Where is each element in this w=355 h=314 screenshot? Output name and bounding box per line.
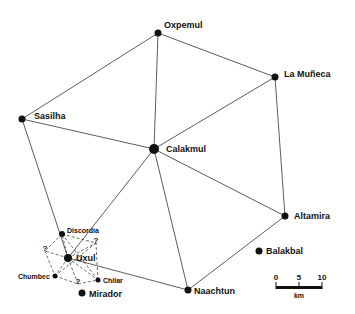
- link-line: [154, 149, 188, 290]
- dashed-link-line: [78, 280, 98, 284]
- site-chilar: Chilar: [96, 277, 124, 284]
- site-dot-icon: [53, 274, 58, 279]
- site-dot-icon: [282, 213, 289, 220]
- dashed-link-line: [96, 243, 98, 280]
- site-dot-icon: [19, 116, 26, 123]
- link-line: [154, 149, 285, 216]
- site-naachtun: Naachtun: [185, 286, 236, 296]
- scale-tick-0: 0: [274, 273, 279, 282]
- site-chumbec: Chumbec: [18, 273, 58, 280]
- site-uxul: Uxul: [64, 253, 96, 263]
- site-altamira: Altamira: [282, 211, 332, 221]
- link-line: [158, 33, 275, 77]
- unknown-site-label: ?: [43, 244, 48, 253]
- link-line: [68, 149, 154, 258]
- site-balakbal: Balakbal: [256, 246, 304, 256]
- site-label: Naachtun: [194, 286, 235, 296]
- dashed-link-line: [55, 276, 78, 284]
- unknown-site-label: ?: [94, 236, 99, 245]
- link-line: [275, 77, 285, 216]
- site-dot-icon: [79, 290, 86, 297]
- unknown-site-label: ?: [76, 277, 81, 286]
- site-label: Balakbal: [266, 246, 303, 256]
- solid-links: [22, 33, 285, 290]
- site-label: Uxul: [76, 253, 96, 263]
- site-mirador: Mirador: [79, 289, 123, 299]
- scale-tick-10: 10: [318, 273, 327, 282]
- site-la-mu-eca: La Muñeca: [272, 69, 332, 81]
- site-label: Discordia: [67, 227, 99, 234]
- site-dot-icon: [185, 287, 192, 294]
- site-label: Oxpemul: [164, 20, 203, 30]
- scale-unit: km: [294, 292, 304, 299]
- site-label: Sasilha: [34, 111, 67, 121]
- link-line: [22, 119, 68, 258]
- link-line: [22, 119, 154, 149]
- site-dot-icon: [272, 74, 279, 81]
- link-line: [22, 33, 158, 119]
- link-line: [154, 77, 275, 149]
- site-label: Chilar: [103, 277, 123, 284]
- dashed-link-line: [45, 234, 62, 251]
- scale-bar: 0 5 10 km: [274, 273, 327, 299]
- site-dot-icon: [96, 278, 101, 283]
- site-label: Calakmul: [166, 144, 206, 154]
- site-dot-icon: [149, 144, 159, 154]
- scale-tick-5: 5: [297, 273, 302, 282]
- site-dot-icon: [59, 231, 65, 237]
- site-calakmul: Calakmul: [149, 144, 206, 154]
- site-label: Altamira: [294, 211, 331, 221]
- link-line: [154, 33, 158, 149]
- site-dot-icon: [155, 30, 162, 37]
- site-network-map: OxpemulLa MuñecaSasilhaCalakmulAltamiraB…: [0, 0, 355, 314]
- site-label: Chumbec: [18, 273, 50, 280]
- map-canvas: OxpemulLa MuñecaSasilhaCalakmulAltamiraB…: [0, 0, 355, 314]
- site-label: Mirador: [89, 289, 123, 299]
- site-dot-icon: [64, 254, 72, 262]
- site-label: La Muñeca: [284, 69, 332, 79]
- dashed-link-line: [62, 234, 96, 243]
- site-dot-icon: [256, 248, 263, 255]
